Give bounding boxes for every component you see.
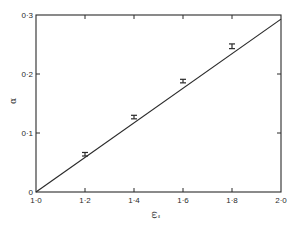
fit-line [36,19,281,192]
x-tick-label: 1·4 [128,196,140,205]
y-axis-ticks: 00·10·20·3 [21,11,281,197]
error-bar [229,44,235,49]
error-bar [180,79,186,83]
y-tick-label: 0 [29,188,34,197]
y-axis-label: α [8,98,18,104]
error-bar [131,115,137,119]
x-tick-label: 1·8 [226,196,238,205]
x-axis-ticks: 1·01·21·41·61·82·0 [30,15,287,205]
x-tick-label: 1·6 [177,196,189,205]
error-bar [82,152,88,156]
y-tick-label: 0·3 [21,11,33,20]
y-tick-label: 0·2 [21,70,33,79]
x-tick-label: 1·2 [79,196,91,205]
x-tick-label: 2·0 [275,196,287,205]
x-tick-label: 1·0 [30,196,42,205]
plot-series [36,19,281,192]
y-tick-label: 0·1 [21,129,33,138]
x-axis-label: ω̃ [150,211,160,218]
chart: 1·01·21·41·61·82·0 00·10·20·3 ω̃ α [0,0,295,227]
